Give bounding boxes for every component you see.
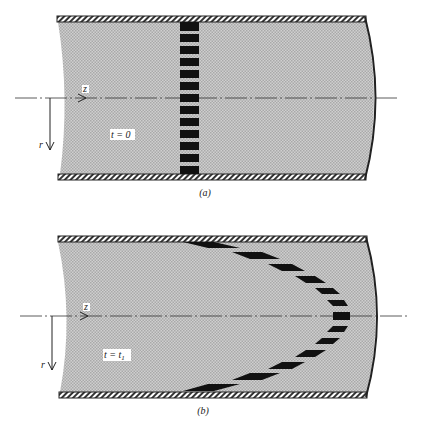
fluid-region-b bbox=[58, 242, 376, 392]
caption-a: (a) bbox=[199, 187, 211, 199]
z-axis-label-b: z bbox=[83, 301, 88, 312]
top-wall-a bbox=[57, 16, 366, 22]
pipe-flow-diagram: z r t = 0 (a) bbox=[0, 0, 422, 427]
time-label-a: t = 0 bbox=[111, 129, 131, 140]
panel-b: z r t = t1 (b) bbox=[20, 236, 410, 417]
caption-b: (b) bbox=[197, 405, 209, 417]
r-axis-label-b: r bbox=[41, 359, 45, 370]
r-axis-label-a: r bbox=[39, 139, 43, 150]
top-wall-b bbox=[58, 236, 367, 242]
z-axis-label-a: z bbox=[82, 83, 87, 94]
bottom-wall-a bbox=[58, 174, 366, 180]
panel-a: z r t = 0 (a) bbox=[15, 16, 400, 199]
bottom-wall-b bbox=[59, 392, 367, 398]
